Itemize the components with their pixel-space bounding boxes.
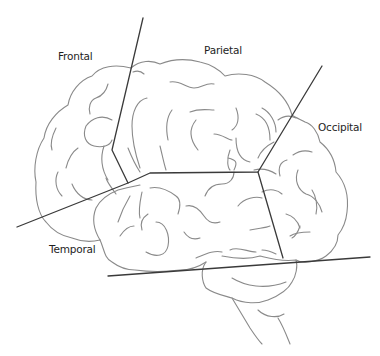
brain-lobes-diagram: Frontal Parietal Occipital Temporal bbox=[0, 0, 380, 356]
brain-illustration bbox=[0, 0, 380, 356]
label-temporal: Temporal bbox=[49, 243, 95, 255]
label-occipital: Occipital bbox=[318, 121, 362, 133]
tentorium-line bbox=[108, 257, 370, 276]
label-frontal: Frontal bbox=[58, 50, 93, 62]
central-sulcus-line bbox=[112, 18, 143, 183]
brain-folds bbox=[51, 71, 322, 258]
label-parietal: Parietal bbox=[204, 44, 242, 56]
parieto-occipital-line bbox=[258, 172, 283, 258]
